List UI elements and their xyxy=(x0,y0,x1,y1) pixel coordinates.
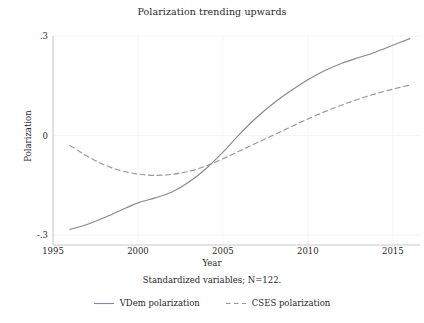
legend-label-vdem: VDem polarization xyxy=(120,298,200,308)
y-tick-label: 0 xyxy=(18,131,48,141)
legend-entry-cses: CSES polarization xyxy=(226,298,330,308)
x-tick-label: 2000 xyxy=(127,246,149,256)
series-line-vdem xyxy=(70,39,410,230)
chart-note: Standardized variables; N=122. xyxy=(0,275,424,285)
x-axis-label: Year xyxy=(0,258,424,268)
x-tick-label: 2015 xyxy=(382,246,404,256)
x-tick-label: 2005 xyxy=(212,246,234,256)
chart-figure: Polarization trending upwards Polarizati… xyxy=(0,0,424,323)
y-tick-label: -.3 xyxy=(18,230,48,240)
y-tick-label: .3 xyxy=(18,31,48,41)
legend-dashed-line-icon xyxy=(226,299,246,308)
legend-label-cses: CSES polarization xyxy=(252,298,330,308)
chart-legend: VDem polarization CSES polarization xyxy=(0,298,424,308)
series-line-cses xyxy=(70,85,410,175)
legend-entry-vdem: VDem polarization xyxy=(94,298,200,308)
legend-solid-line-icon xyxy=(94,299,114,308)
x-tick-label: 2010 xyxy=(297,246,319,256)
x-tick-label: 1995 xyxy=(42,246,64,256)
chart-title: Polarization trending upwards xyxy=(0,6,424,17)
